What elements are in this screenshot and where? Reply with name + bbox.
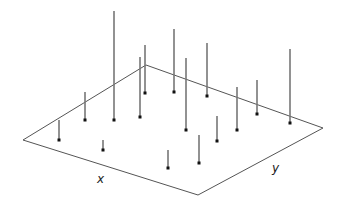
stem-marker [173, 91, 176, 94]
x-axis-label: x [97, 172, 104, 186]
stem [144, 45, 147, 95]
stem-marker [236, 129, 239, 132]
stem [167, 150, 170, 170]
stem-plot-3d [0, 0, 342, 206]
stem-marker [206, 95, 209, 98]
stem-marker [102, 149, 105, 152]
y-axis-label: y [272, 161, 279, 175]
stem-marker [84, 119, 87, 122]
stem [113, 11, 116, 122]
stem [216, 116, 219, 143]
stem-marker [58, 139, 61, 142]
stem-marker [185, 129, 188, 132]
stem [173, 29, 176, 94]
stems-group [58, 11, 292, 170]
stem-marker [289, 122, 292, 125]
stem-marker [139, 116, 142, 119]
stem-marker [198, 162, 201, 165]
stem [256, 80, 259, 116]
stem-marker [216, 140, 219, 143]
stem [84, 92, 87, 122]
stem [206, 43, 209, 98]
stem-marker [113, 119, 116, 122]
stem-marker [167, 167, 170, 170]
stem [185, 58, 188, 132]
stem-marker [256, 113, 259, 116]
stem [58, 120, 61, 142]
stem [289, 49, 292, 125]
base-plane [23, 65, 323, 195]
stem [139, 57, 142, 119]
stem [236, 87, 239, 132]
stem [198, 135, 201, 165]
stem [102, 140, 105, 152]
stem-marker [144, 92, 147, 95]
